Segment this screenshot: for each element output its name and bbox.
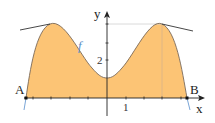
y-axis-arrow-icon xyxy=(104,11,110,18)
curve-tail-left xyxy=(24,98,26,110)
point-a-label: A xyxy=(15,82,25,97)
x-tick-label-1: 1 xyxy=(123,101,129,113)
y-tick-label-2: 2 xyxy=(97,54,103,66)
shaded-region xyxy=(26,23,187,98)
curve-tail-right xyxy=(187,98,190,110)
function-label-f: f xyxy=(78,38,84,53)
x-axis-label: x xyxy=(196,101,203,116)
point-b-marker xyxy=(186,97,189,100)
point-b-label: B xyxy=(190,82,199,97)
function-graph: A B x y 1 2 f xyxy=(0,0,215,123)
y-axis-label: y xyxy=(94,6,101,21)
point-a-marker xyxy=(25,97,28,100)
